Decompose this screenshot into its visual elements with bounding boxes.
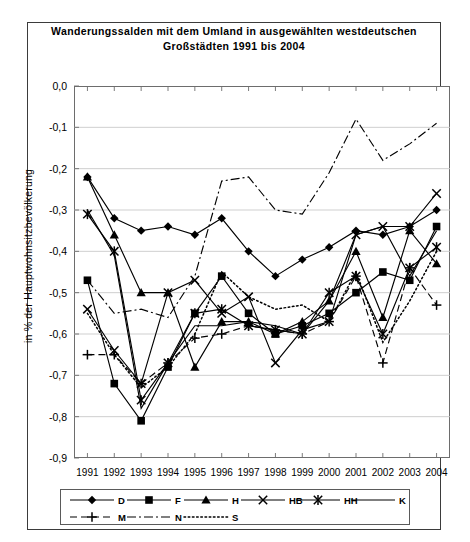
y-tick-label: -0,7 [49, 369, 67, 381]
legend-item-d[interactable]: D [69, 491, 125, 509]
legend-item-m[interactable]: M [69, 508, 126, 526]
legend-label: M [118, 512, 126, 523]
series-layer [74, 86, 450, 458]
chart-title-line-1: Wanderungssalden mit dem Umland in ausge… [28, 24, 440, 39]
legend-label: S [232, 512, 238, 523]
chart-title-line-2: Großstädten 1991 bis 2004 [28, 39, 440, 54]
series-HB [83, 189, 441, 388]
gridlines [74, 86, 450, 458]
x-tick-label: 2002 [372, 467, 394, 478]
y-tick-label: -0,2 [49, 163, 67, 175]
x-tick-label: 2004 [425, 467, 447, 478]
y-tick-label: -0,6 [49, 328, 67, 340]
legend-label: D [118, 495, 125, 506]
y-tick-label: -0,9 [49, 452, 67, 464]
y-tick-label: -0,5 [49, 287, 67, 299]
plot-area: 0,0-0,1-0,2-0,3-0,4-0,5-0,6-0,7-0,8-0,9 … [74, 86, 450, 458]
x-tick-label: 1998 [264, 467, 286, 478]
x-tick-label: 1991 [76, 467, 98, 478]
legend-row: MNS [61, 508, 409, 526]
y-tick-label: 0,0 [52, 80, 67, 92]
x-tick-label: 2000 [318, 467, 340, 478]
legend-item-hb[interactable]: HB [240, 491, 303, 509]
x-line-symbol [240, 493, 286, 507]
chart-title: Wanderungssalden mit dem Umland in ausge… [28, 24, 440, 54]
diamond-line-symbol [69, 493, 115, 507]
asterisk-line-symbol [295, 493, 341, 507]
y-tick-label: -0,1 [49, 121, 67, 133]
x-tick-label: 1993 [130, 467, 152, 478]
y-tick-label: -0,8 [49, 411, 67, 423]
square-line-symbol [126, 493, 172, 507]
y-tick-label: -0,4 [49, 245, 67, 257]
legend-item-s[interactable]: S [183, 508, 238, 526]
legend-item-h[interactable]: H [183, 491, 239, 509]
dashdot-line-symbol [126, 510, 172, 524]
triangle-line-symbol [183, 493, 229, 507]
dashed-plus-line-symbol [69, 510, 115, 524]
dotted-line-symbol [183, 510, 229, 524]
x-tick-label: 1999 [291, 467, 313, 478]
legend-label: K [399, 495, 406, 506]
x-tick-label: 1992 [103, 467, 125, 478]
legend-label: H [232, 495, 239, 506]
y-axis-label: in % der Hauptwohnsitzbevölkerung [22, 136, 34, 376]
legend-label: F [175, 495, 181, 506]
y-tick-label: -0,3 [49, 204, 67, 216]
legend-item-f[interactable]: F [126, 491, 181, 509]
chart-legend: DFHHBHHKMNS [60, 489, 410, 525]
plain-line-symbol [350, 493, 396, 507]
series-N [87, 119, 436, 317]
x-tick-label: 2001 [345, 467, 367, 478]
x-tick-label: 1994 [157, 467, 179, 478]
x-tick-label: 1995 [184, 467, 206, 478]
x-tick-label: 2003 [399, 467, 421, 478]
x-tick-label: 1996 [211, 467, 233, 478]
legend-item-hh[interactable]: HH [295, 491, 358, 509]
series-H [83, 172, 441, 370]
legend-label: N [175, 512, 182, 523]
legend-item-n[interactable]: N [126, 508, 182, 526]
legend-row: DFHHBHHK [61, 491, 409, 509]
x-tick-label: 1997 [237, 467, 259, 478]
legend-item-k[interactable]: K [350, 491, 406, 509]
